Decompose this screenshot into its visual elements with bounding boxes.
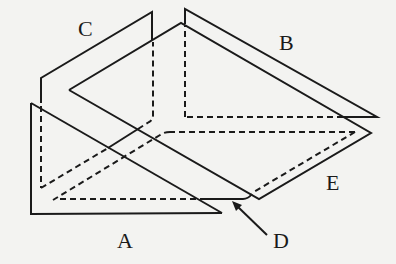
diagram-figure	[0, 0, 396, 264]
diagram-canvas: C B A D E	[0, 0, 396, 264]
label-a: A	[117, 230, 133, 252]
shape-a	[31, 103, 222, 214]
shape-e	[53, 23, 371, 200]
arrow-d-pointer	[232, 201, 267, 235]
shape-c	[41, 12, 153, 188]
label-c: C	[78, 18, 93, 40]
label-e: E	[326, 172, 339, 194]
shape-b	[185, 9, 377, 117]
edge-d	[60, 194, 252, 199]
label-b: B	[279, 32, 294, 54]
label-d: D	[273, 230, 289, 252]
